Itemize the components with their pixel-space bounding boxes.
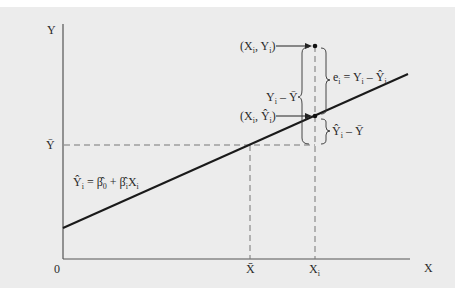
x-i-label: Xi [309,262,321,278]
observed-point-label: (Xi, Yi) [240,39,275,55]
x-axis-label: X [424,261,433,275]
fitted-point-label: (Xi, Ŷi) [240,109,276,125]
total-deviation-label: Yi – Ȳ [266,90,298,106]
x-mean-label: X̄ [246,262,255,276]
regression-diagram: Y X 0 Ȳ X̄ Xi Ŷi = β̂0 + β̂iXi (Xi, Yi) … [0,0,467,295]
regression-line [63,74,408,228]
explained-brace-icon [321,119,330,144]
explained-deviation-label: Ŷi – Ȳ [332,124,364,140]
fitted-point [313,114,318,119]
regression-equation: Ŷi = β̂0 + β̂iXi [73,175,140,191]
y-mean-label: Ȳ [46,138,55,152]
y-axis-label: Y [47,23,56,37]
origin-label: 0 [54,262,60,276]
observed-point [313,44,318,49]
residual-brace-icon [321,48,330,114]
residual-label: ei = Yi – Ŷi [333,70,387,86]
observed-arrowhead-icon [305,43,312,49]
total-deviation-brace-icon [298,47,309,144]
